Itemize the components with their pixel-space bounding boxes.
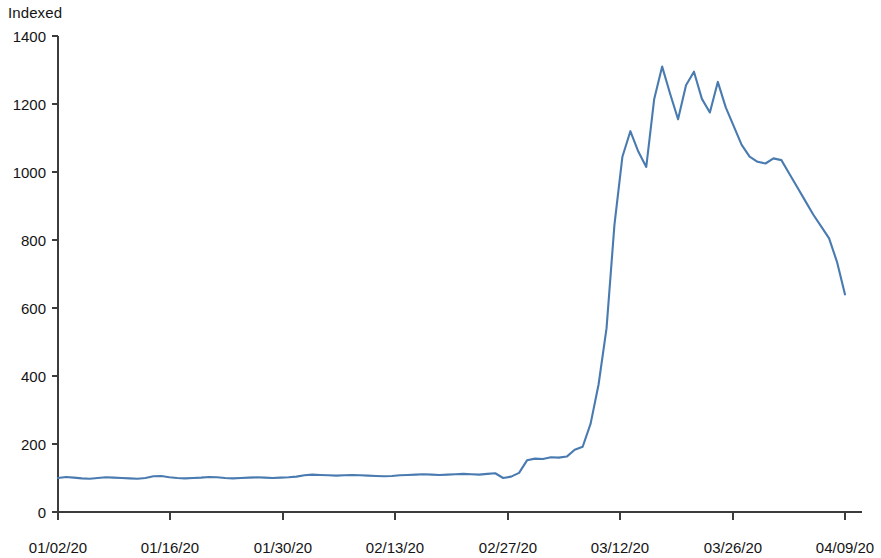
y-tick-label: 200 — [21, 436, 46, 453]
x-tick-label: 02/27/20 — [479, 539, 537, 556]
y-tick-label: 800 — [21, 232, 46, 249]
y-axis-ticks — [52, 36, 58, 512]
chart-container: Indexed 1400 1200 1000 800 600 400 200 0 — [0, 0, 881, 558]
y-tick-label: 1400 — [13, 28, 46, 45]
y-axis-tick-labels: 1400 1200 1000 800 600 400 200 0 — [13, 28, 46, 521]
x-tick-label: 01/16/20 — [141, 539, 199, 556]
x-tick-label: 04/09/20 — [816, 539, 874, 556]
x-tick-label: 01/30/20 — [254, 539, 312, 556]
y-tick-label: 600 — [21, 300, 46, 317]
x-axis-tick-labels: 01/02/20 01/16/20 01/30/20 02/13/20 02/2… — [29, 539, 874, 556]
y-tick-label: 1200 — [13, 96, 46, 113]
data-series-line — [58, 67, 845, 479]
line-chart-plot: 1400 1200 1000 800 600 400 200 0 — [0, 0, 881, 558]
x-tick-label: 01/02/20 — [29, 539, 87, 556]
y-tick-label: 400 — [21, 368, 46, 385]
x-axis-ticks — [58, 512, 845, 520]
x-tick-label: 03/12/20 — [591, 539, 649, 556]
y-tick-label: 0 — [38, 504, 46, 521]
x-tick-label: 03/26/20 — [704, 539, 762, 556]
y-tick-label: 1000 — [13, 164, 46, 181]
x-tick-label: 02/13/20 — [366, 539, 424, 556]
